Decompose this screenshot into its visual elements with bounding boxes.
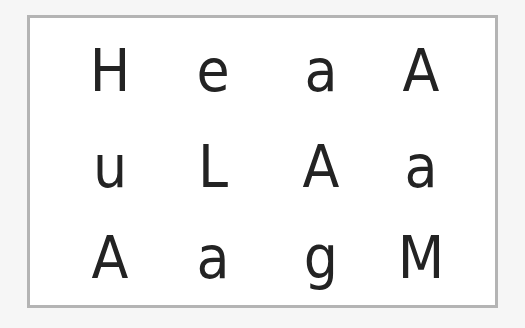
letter-cell: u — [64, 132, 157, 202]
letter-cell: A — [375, 36, 468, 106]
letter-cell: a — [375, 132, 468, 202]
letter-cell: H — [64, 36, 157, 106]
letter-cell: L — [167, 132, 260, 202]
letter-card: H e a A u L A a A a g M — [27, 15, 498, 308]
letter-cell: M — [375, 223, 468, 293]
letter-cell: a — [167, 223, 260, 293]
letter-cell: e — [167, 36, 260, 106]
letter-cell: A — [64, 223, 157, 293]
letter-cell: A — [275, 132, 368, 202]
letter-cell: a — [275, 36, 368, 106]
letter-cell: g — [275, 223, 368, 293]
